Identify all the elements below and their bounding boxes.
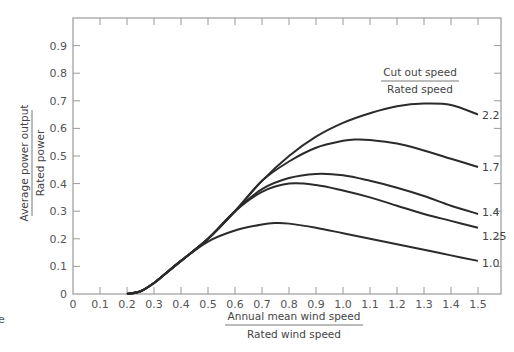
y-tick-label: 0.4: [50, 178, 68, 191]
series-label-2-2: 2.2: [482, 109, 500, 122]
x-tick-label: 0.4: [172, 298, 190, 311]
x-tick-label: 1.5: [469, 298, 487, 311]
x-tick-label: 1.3: [415, 298, 433, 311]
series-line-1-0: [127, 223, 478, 294]
y-tick-label: 0.7: [50, 95, 68, 108]
series-label-1-25: 1.25: [482, 230, 507, 243]
x-tick-label: 0.5: [199, 298, 217, 311]
y-axis-title-denominator: Rated power: [34, 129, 46, 196]
x-tick-label: 1.2: [388, 298, 406, 311]
y-axis-title-numerator: Average power output: [18, 105, 30, 222]
series-label-1-0: 1.0: [482, 257, 500, 270]
series-line-1-25: [127, 183, 478, 294]
x-tick-label: 0.3: [145, 298, 163, 311]
series-line-2-2: [127, 103, 478, 294]
y-tick-label: 0.2: [50, 233, 68, 246]
x-axis-title-denominator: Rated wind speed: [247, 328, 341, 340]
series-lines: [127, 103, 478, 294]
legend-title-denominator: Rated speed: [387, 83, 453, 95]
x-tick-label: 1.1: [361, 298, 379, 311]
y-tick-label: 0.8: [50, 67, 68, 80]
y-tick-label: 0: [60, 288, 67, 301]
y-tick-label: 0.9: [50, 40, 68, 53]
series-label-1-7: 1.7: [482, 161, 500, 174]
series-labels: 2.21.71.41.251.0: [482, 109, 507, 270]
series-label-1-4: 1.4: [482, 206, 500, 219]
caption-fragment: e: [0, 313, 5, 326]
legend-title-numerator: Cut out speed: [383, 66, 457, 78]
y-tick-label: 0.6: [50, 122, 68, 135]
chart: 00.10.20.30.40.50.60.70.80.91.01.11.21.3…: [0, 0, 514, 352]
x-tick-label: 0.1: [91, 298, 109, 311]
y-tick-label: 0.1: [50, 260, 68, 273]
series-line-1-7: [127, 139, 478, 294]
y-tick-label: 0.5: [50, 150, 68, 163]
x-tick-label: 0: [70, 298, 77, 311]
x-axis-title-numerator: Annual mean wind speed: [228, 310, 361, 322]
x-tick-label: 1.4: [442, 298, 460, 311]
series-line-1-4: [127, 174, 478, 294]
x-tick-label: 0.2: [118, 298, 136, 311]
y-tick-label: 0.3: [50, 205, 68, 218]
